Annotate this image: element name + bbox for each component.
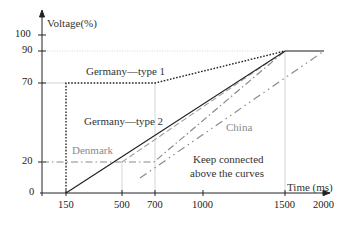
x-tick-1000: 1000 xyxy=(192,200,213,211)
y-tick-70: 70 xyxy=(22,77,33,88)
note-line2: above the curves xyxy=(190,168,264,179)
germany-type1-label: Germany—type 1 xyxy=(86,66,165,77)
y-tick-90: 90 xyxy=(22,45,33,56)
y-axis-arrow-icon xyxy=(40,10,45,17)
germany-type2-label: Germany—type 2 xyxy=(84,116,163,127)
y-tick-20: 20 xyxy=(22,156,33,167)
china-label: China xyxy=(226,122,252,133)
x-tick-2000: 2000 xyxy=(313,200,334,211)
y-tick-0: 0 xyxy=(29,187,34,198)
x-tick-700: 700 xyxy=(147,200,163,211)
x-tick-500: 500 xyxy=(114,200,130,211)
x-axis-label: Time (ms) xyxy=(287,182,333,193)
note-line1: Keep connected xyxy=(193,154,264,165)
y-axis-label: Voltage(%) xyxy=(47,18,97,29)
axes xyxy=(38,10,330,196)
denmark-label: Denmark xyxy=(72,145,113,156)
y-tick-100: 100 xyxy=(15,29,31,40)
x-tick-150: 150 xyxy=(58,200,74,211)
x-tick-1500: 1500 xyxy=(274,200,295,211)
